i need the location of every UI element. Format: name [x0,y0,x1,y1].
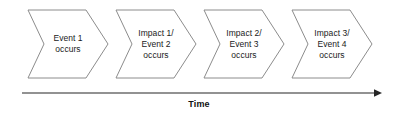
chevron-shape-icon [200,9,288,79]
chevron-stage-2[interactable]: Impact 1/ Event 2 occurs [112,9,200,79]
time-axis [0,86,398,100]
timeline-diagram: Event 1 occurs Impact 1/ Event 2 occurs … [0,0,398,117]
chevron-stage-3[interactable]: Impact 2/ Event 3 occurs [200,9,288,79]
chevron-shape-icon [112,9,200,79]
time-arrow-icon [0,86,398,100]
chevron-shape-icon [288,9,376,79]
chevron-stage-4[interactable]: Impact 3/ Event 4 occurs [288,9,376,79]
chevron-stage-1[interactable]: Event 1 occurs [24,9,112,79]
time-axis-label: Time [0,99,398,109]
chevron-shape-icon [24,9,112,79]
chevron-sequence: Event 1 occurs Impact 1/ Event 2 occurs … [0,0,398,86]
